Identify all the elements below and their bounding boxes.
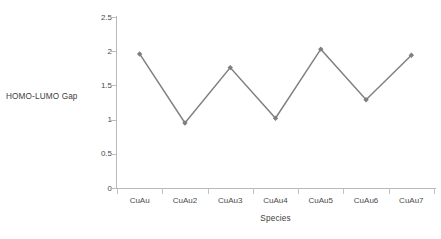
x-axis-title: Species <box>117 214 434 223</box>
series-line <box>140 49 412 123</box>
series-plot <box>0 0 441 239</box>
line-chart: HOMO-LUMO Gap 00.511.522.5 CuAuCuAu2CuAu… <box>0 0 441 239</box>
